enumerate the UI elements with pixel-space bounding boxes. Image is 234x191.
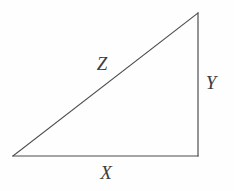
side-label-base: X (100, 163, 112, 182)
side-label-vertical-leg: Y (206, 73, 217, 92)
right-triangle-figure: Z X Y (0, 0, 234, 191)
triangle-drawing (0, 0, 234, 191)
side-label-hypotenuse: Z (97, 54, 108, 73)
triangle-side-hypotenuse (13, 13, 198, 156)
